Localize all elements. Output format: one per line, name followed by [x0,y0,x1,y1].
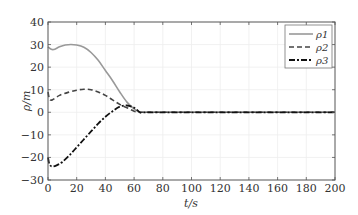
x-tick-labels: 020406080100120140160180200 [45,182,346,195]
y-tick-label: −10 [21,129,44,142]
x-tick-label: 160 [267,182,288,195]
y-tick-label: 40 [30,16,44,29]
x-tick-label: 80 [156,182,170,195]
x-tick-label: 60 [127,182,141,195]
y-tick-label: −20 [21,151,44,164]
x-axis-label: t/s [184,197,198,210]
legend-label-rho3: ρ3 [315,55,328,66]
y-axis-label: ρ/m [20,91,33,113]
x-tick-label: 180 [296,182,317,195]
x-tick-label: 140 [238,182,259,195]
x-tick-label: 100 [181,182,202,195]
y-tick-label: 30 [30,39,44,52]
x-tick-label: 40 [98,182,112,195]
legend: ρ1 ρ2 ρ3 [285,25,332,68]
x-tick-label: 20 [70,182,84,195]
y-tick-label: −30 [21,174,44,187]
y-tick-label: 0 [37,106,44,119]
line-chart: 020406080100120140160180200 −30−20−10010… [0,0,358,215]
legend-label-rho1: ρ1 [315,29,328,40]
x-tick-label: 200 [325,182,346,195]
legend-label-rho2: ρ2 [315,42,328,53]
x-tick-label: 120 [210,182,231,195]
y-tick-label: 20 [30,61,44,74]
x-tick-label: 0 [45,182,52,195]
